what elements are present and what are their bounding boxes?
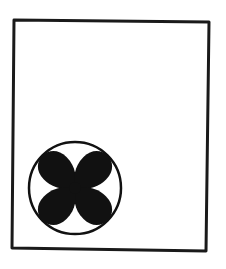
fan-icon (29, 142, 121, 234)
fan-blades (31, 144, 119, 232)
fan-hub (69, 182, 81, 194)
diagram-canvas (0, 0, 226, 269)
